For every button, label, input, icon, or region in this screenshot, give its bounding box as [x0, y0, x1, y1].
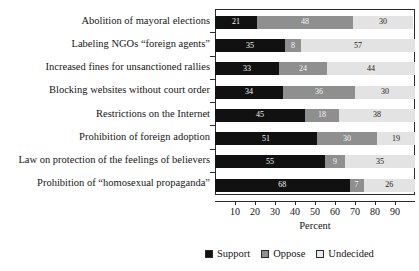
- bar-value-label: 30: [343, 135, 351, 143]
- bar-segment-undecided: 30: [353, 16, 413, 29]
- bar-value-label: 48: [301, 18, 309, 26]
- bar-segment-undecided: 19: [377, 132, 415, 145]
- bar-value-label: 33: [243, 65, 251, 73]
- bar-value-label: 38: [373, 111, 381, 119]
- bar-value-label: 51: [262, 135, 270, 143]
- bar-row: 68726: [215, 172, 415, 199]
- bar-segment-oppose: 7: [350, 179, 364, 192]
- bar-value-label: 9: [333, 158, 337, 166]
- bar-value-label: 44: [367, 65, 375, 73]
- x-axis-tick: [275, 201, 276, 205]
- bar-value-label: 35: [246, 42, 254, 50]
- legend-label: Support: [217, 248, 250, 259]
- stacked-bar: 55935: [215, 155, 415, 168]
- category-label: Increased fines for unsanctioned rallies: [0, 61, 210, 72]
- legend-swatch-undecided: [316, 250, 324, 258]
- legend-item: Oppose: [261, 248, 305, 259]
- bar-segment-undecided: 26: [364, 179, 415, 192]
- legend-item: Undecided: [316, 248, 373, 259]
- bar-value-label: 24: [299, 65, 307, 73]
- bar-value-label: 35: [376, 158, 384, 166]
- x-axis-tick: [375, 201, 376, 205]
- bar-value-label: 21: [232, 18, 240, 26]
- bar-segment-undecided: 30: [355, 86, 415, 99]
- bar-segment-support: 45: [215, 109, 305, 122]
- category-label: Prohibition of “homosexual propaganda”: [0, 177, 210, 188]
- legend-swatch-support: [205, 250, 213, 258]
- bar-value-label: 19: [392, 135, 400, 143]
- bar-segment-support: 51: [215, 132, 317, 145]
- chart-legend: SupportOpposeUndecided: [205, 248, 419, 259]
- stacked-bar: 343630: [215, 86, 415, 99]
- bar-value-label: 26: [385, 181, 393, 189]
- stacked-bar: 35857: [215, 39, 415, 52]
- bar-segment-oppose: 36: [283, 86, 355, 99]
- bar-segment-oppose: 9: [325, 155, 345, 168]
- bar-value-label: 7: [355, 181, 359, 189]
- bar-segment-support: 33: [215, 62, 279, 75]
- category-label: Law on protection of the feelings of bel…: [0, 154, 210, 165]
- bar-value-label: 68: [278, 181, 286, 189]
- bar-segment-oppose: 18: [305, 109, 339, 122]
- x-axis-tick: [255, 201, 256, 205]
- x-axis-tick-label: 90: [382, 206, 408, 217]
- bar-value-label: 34: [245, 88, 253, 96]
- bar-segment-undecided: 38: [339, 109, 415, 122]
- stacked-bar-chart: Abolition of mayoral electionsLabeling N…: [0, 0, 419, 271]
- bar-segment-support: 35: [215, 39, 285, 52]
- category-label: Blocking websites without court order: [0, 84, 210, 95]
- bar-value-label: 30: [379, 18, 387, 26]
- bar-segment-oppose: 8: [285, 39, 301, 52]
- bar-segment-undecided: 35: [345, 155, 415, 168]
- x-axis-tick: [315, 201, 316, 205]
- bar-segment-support: 68: [215, 179, 350, 192]
- legend-label: Undecided: [328, 248, 373, 259]
- category-axis-labels: Abolition of mayoral electionsLabeling N…: [0, 9, 210, 195]
- bar-rows: 2148303585733244434363045183851301955935…: [215, 9, 415, 195]
- bar-segment-oppose: 24: [279, 62, 327, 75]
- bar-value-label: 8: [291, 42, 295, 50]
- bar-value-label: 18: [318, 111, 326, 119]
- legend-item: Support: [205, 248, 250, 259]
- x-axis-tick: [395, 201, 396, 205]
- bar-segment-undecided: 57: [301, 39, 415, 52]
- legend-label: Oppose: [273, 248, 305, 259]
- bar-segment-oppose: 48: [257, 16, 353, 29]
- bar-segment-support: 34: [215, 86, 283, 99]
- category-label: Restrictions on the Internet: [0, 108, 210, 119]
- category-label: Abolition of mayoral elections: [0, 15, 210, 26]
- bar-value-label: 36: [315, 88, 323, 96]
- bar-segment-undecided: 44: [327, 62, 415, 75]
- category-label: Prohibition of foreign adoption: [0, 131, 210, 142]
- x-axis-tick: [235, 201, 236, 205]
- bar-segment-oppose: 30: [317, 132, 377, 145]
- stacked-bar: 68726: [215, 179, 415, 192]
- legend-swatch-oppose: [261, 250, 269, 258]
- x-axis-tick: [295, 201, 296, 205]
- category-label: Labeling NGOs “foreign agents”: [0, 38, 210, 49]
- stacked-bar: 451838: [215, 109, 415, 122]
- stacked-bar: 214830: [215, 16, 415, 29]
- bar-value-label: 57: [354, 42, 362, 50]
- bar-value-label: 30: [381, 88, 389, 96]
- stacked-bar: 332444: [215, 62, 415, 75]
- bar-segment-support: 21: [215, 16, 257, 29]
- bar-value-label: 45: [256, 111, 264, 119]
- x-axis-title: Percent: [215, 220, 415, 231]
- bar-segment-support: 55: [215, 155, 325, 168]
- stacked-bar: 513019: [215, 132, 415, 145]
- x-axis-tick: [335, 201, 336, 205]
- x-axis-tick: [355, 201, 356, 205]
- bar-value-label: 55: [266, 158, 274, 166]
